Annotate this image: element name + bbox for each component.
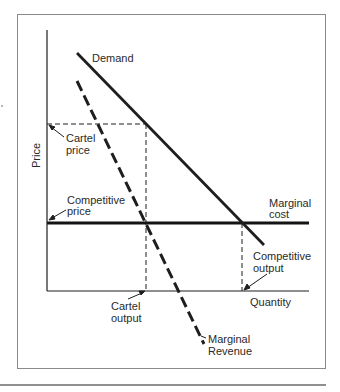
- cartel-price-label-2: price: [66, 144, 90, 156]
- y-axis-label: Price: [30, 143, 42, 168]
- competitive-price-label-2: price: [67, 205, 91, 217]
- x-axis-label: Quantity: [250, 296, 291, 308]
- annotation-arrows: [49, 125, 267, 338]
- diagram-frame: [18, 15, 326, 369]
- competitive-output-arrow: [247, 274, 267, 288]
- marginal-revenue-label-1: Marginal: [208, 333, 250, 345]
- cartel-price-label-1: Cartel: [66, 132, 95, 144]
- competitive-output-label-1: Competitive: [253, 250, 311, 262]
- cartel-output-label-2: output: [111, 312, 142, 324]
- demand-label: Demand: [92, 52, 134, 64]
- demand-curve: [77, 53, 264, 245]
- competitive-output-label-2: output: [253, 262, 284, 274]
- arrowhead-icon: [49, 215, 55, 220]
- marginal-cost-label-2: cost: [269, 208, 289, 220]
- marginal-revenue-label-2: Revenue: [208, 345, 252, 357]
- marginal-revenue-tick: [201, 336, 206, 338]
- arrowhead-icon: [244, 284, 250, 290]
- cartel-output-label-1: Cartel: [111, 300, 140, 312]
- marginal-revenue-curve: [77, 81, 204, 344]
- cartel-diagram: Demand Cartel price Price Competitive pr…: [0, 0, 340, 392]
- stray-mark: [1, 105, 3, 107]
